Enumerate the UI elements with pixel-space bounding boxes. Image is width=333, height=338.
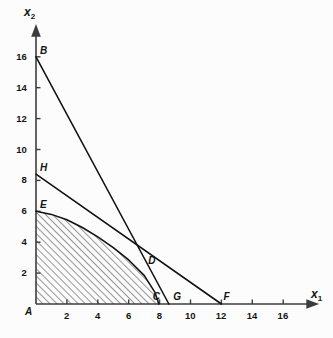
x-tick-label: 12: [216, 311, 227, 321]
x-tick-label: 8: [157, 311, 162, 321]
point-label-C: C: [153, 292, 160, 302]
y-axis-label: x2: [24, 6, 35, 21]
x-tick-label: 6: [126, 311, 131, 321]
y-tick-label: 2: [22, 268, 27, 278]
point-label-B: B: [40, 46, 47, 56]
y-tick-label: 4: [22, 237, 27, 247]
y-tick-label: 8: [22, 175, 27, 185]
y-tick-label: 12: [16, 114, 27, 124]
x-axis-label: x1: [311, 288, 322, 303]
x-tick-label: 16: [278, 311, 289, 321]
x-tick-label: 4: [95, 311, 100, 321]
point-label-D: D: [148, 256, 155, 266]
point-label-F: F: [223, 292, 229, 302]
point-label-A: A: [25, 307, 32, 317]
point-label-E: E: [40, 200, 47, 210]
x-tick-label: 14: [247, 311, 258, 321]
x-tick-label: 2: [64, 311, 69, 321]
linear-programming-chart: [0, 0, 333, 338]
y-tick-label: 6: [22, 206, 27, 216]
point-label-H: H: [40, 163, 47, 173]
y-tick-label: 10: [16, 145, 27, 155]
y-tick-label: 16: [16, 52, 27, 62]
y-tick-label: 14: [16, 83, 27, 93]
point-label-G: G: [173, 292, 181, 302]
x-tick-label: 10: [185, 311, 196, 321]
